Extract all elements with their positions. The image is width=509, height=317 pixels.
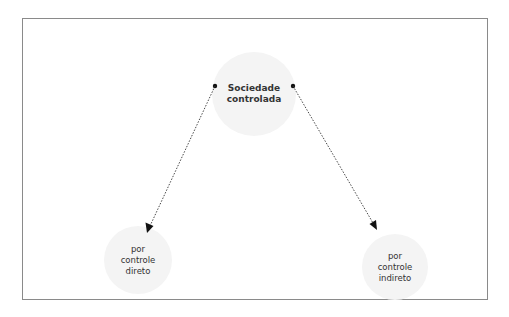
edge-top-to-left xyxy=(146,84,218,233)
arrowhead-icon xyxy=(370,220,378,230)
edges-layer xyxy=(0,0,509,317)
arrowhead-icon xyxy=(146,223,154,234)
edge-top-to-right xyxy=(291,84,377,230)
